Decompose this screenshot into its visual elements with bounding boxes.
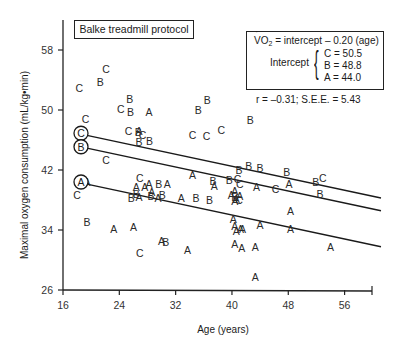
marker-label: B <box>77 141 84 153</box>
data-point-a: A <box>238 242 245 254</box>
data-point-a: A <box>145 106 152 118</box>
data-point-b: B <box>133 188 140 200</box>
data-point-a: A <box>252 271 259 283</box>
marker-label: A <box>77 176 84 188</box>
data-point-b: B <box>155 178 162 190</box>
x-tick-label: 40 <box>226 299 238 311</box>
data-point-b: B <box>83 216 90 228</box>
x-axis-label: Age (years) <box>197 324 249 335</box>
data-point-c: C <box>117 103 125 115</box>
data-point-c: C <box>319 172 327 184</box>
data-point-b: B <box>247 114 254 126</box>
y-ticks: 2634425058 <box>41 44 63 296</box>
data-point-a: A <box>239 223 246 235</box>
intercept-c: C = 50.5 <box>324 48 362 60</box>
data-point-c: C <box>73 189 81 201</box>
line-markers: CBA <box>74 126 88 189</box>
data-point-a: A <box>327 241 334 253</box>
data-point-b: B <box>209 175 216 187</box>
data-point-a: A <box>178 192 185 204</box>
data-point-b: B <box>193 192 200 204</box>
data-point-b: B <box>126 93 133 105</box>
data-point-c: C <box>136 172 144 184</box>
y-tick-label: 42 <box>41 164 53 176</box>
intercept-label: Intercept <box>270 57 309 68</box>
equation-box: VO2 = intercept – 0.20 (age) Intercept {… <box>246 31 384 90</box>
data-point-c: C <box>136 247 144 259</box>
y-tick-label: 34 <box>41 224 53 236</box>
data-point-c: C <box>125 125 133 137</box>
data-point-c: C <box>75 82 83 94</box>
data-point-b: B <box>162 236 169 248</box>
data-point-c: C <box>235 194 243 206</box>
y-tick-label: 50 <box>41 104 53 116</box>
data-point-a: A <box>257 219 264 231</box>
data-point-a: A <box>184 244 191 256</box>
data-point-c: C <box>82 113 90 125</box>
data-point-c: C <box>236 178 244 190</box>
data-point-b: B <box>204 94 211 106</box>
vo2-symbol: VO <box>254 35 268 46</box>
x-tick-label: 24 <box>113 299 125 311</box>
data-point-a: A <box>110 223 117 235</box>
data-point-c: C <box>102 154 110 166</box>
data-point-a: A <box>252 241 259 253</box>
data-point-c: C <box>189 129 197 141</box>
y-tick-label: 58 <box>41 44 53 56</box>
data-point-c: C <box>218 124 226 136</box>
data-point-b: B <box>147 190 154 202</box>
stats-text: r = –0.31; S.E.E. = 5.43 <box>256 94 361 105</box>
marker-label: C <box>77 127 85 139</box>
data-point-a: A <box>130 221 137 233</box>
intercept-values: C = 50.5 B = 48.8 A = 44.0 <box>324 48 362 84</box>
intercept-b: B = 48.8 <box>324 60 362 72</box>
chart-title: Balke treadmill protocol <box>74 20 194 39</box>
intercept-a: A = 44.0 <box>324 72 362 84</box>
x-axis <box>63 290 372 291</box>
x-tick-label: 48 <box>282 299 294 311</box>
data-point-b: B <box>257 162 264 174</box>
data-point-c: C <box>272 183 280 195</box>
data-point-b: B <box>226 174 233 186</box>
data-point-b: B <box>316 188 323 200</box>
data-point-b: B <box>283 166 290 178</box>
x-tick-label: 56 <box>339 299 351 311</box>
data-point-b: B <box>97 76 104 88</box>
data-point-a: A <box>253 181 260 193</box>
data-point-a: A <box>287 205 294 217</box>
x-tick-label: 32 <box>170 299 182 311</box>
equation-text: = intercept – 0.20 (age) <box>272 35 378 46</box>
data-point-b: B <box>127 106 134 118</box>
y-axis-label: Maximal oxygen consumption (mL/kg•min) <box>19 71 30 259</box>
data-point-b: B <box>146 135 153 147</box>
data-point-c: C <box>139 129 147 141</box>
data-point-c: C <box>102 63 110 75</box>
data-point-a: A <box>287 223 294 235</box>
data-point-b: B <box>206 194 213 206</box>
data-point-b: B <box>159 189 166 201</box>
data-point-a: A <box>189 169 196 181</box>
brace-icon: { <box>314 48 319 78</box>
data-point-b: B <box>245 160 252 172</box>
data-point-c: C <box>203 130 211 142</box>
x-tick-label: 16 <box>57 299 69 311</box>
data-point-a: A <box>231 238 238 250</box>
data-point-a: A <box>285 178 292 190</box>
y-tick-label: 26 <box>41 284 53 296</box>
data-point-b: B <box>195 104 202 116</box>
